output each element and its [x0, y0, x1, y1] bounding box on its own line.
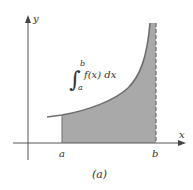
integral-lower-limit: a [78, 83, 83, 92]
integrand: f(x) dx [83, 69, 117, 80]
improper-integral-diagram: y x a b ∫ b a f(x) dx (a) [0, 0, 193, 190]
y-axis-label: y [32, 13, 39, 24]
x-axis-arrow-icon [178, 140, 186, 146]
y-axis-arrow-icon [25, 15, 31, 23]
x-axis-label: x [179, 129, 185, 140]
integral-upper-limit: b [80, 59, 85, 68]
figure-caption: (a) [92, 168, 107, 181]
tick-label-b: b [152, 148, 158, 159]
tick-label-a: a [59, 148, 65, 159]
